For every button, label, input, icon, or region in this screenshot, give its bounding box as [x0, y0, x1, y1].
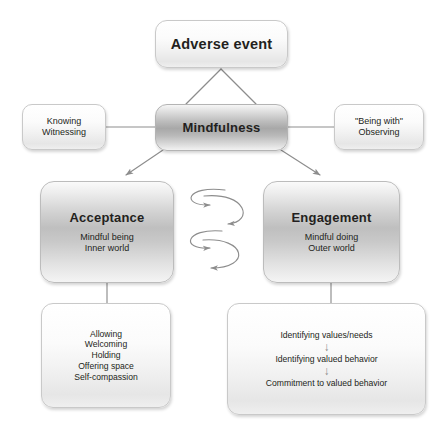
acceptance-practice-item: Welcoming [85, 339, 127, 350]
engagement-line-2: Outer world [308, 243, 355, 254]
edge-interplay-rightward-top [191, 189, 225, 205]
node-mindfulness[interactable]: Mindfulness [155, 104, 288, 151]
edge-adverse-to-mindfulness-right [221, 69, 256, 104]
node-knowing-witnessing[interactable]: Knowing Witnessing [22, 104, 106, 150]
knowing-line-2: Witnessing [42, 127, 86, 138]
knowing-line-1: Knowing [47, 116, 82, 127]
edge-mindfulness-to-engagement [281, 150, 320, 175]
diagram-canvas: Adverse event Knowing Witnessing Mindful… [0, 0, 448, 447]
node-engagement-practices[interactable]: Identifying values/needs ↓ Identifying v… [227, 303, 426, 415]
acceptance-title: Acceptance [70, 210, 145, 225]
node-adverse-event[interactable]: Adverse event [155, 20, 288, 68]
down-arrow-icon: ↓ [324, 341, 330, 353]
edge-mindfulness-to-acceptance [126, 150, 163, 175]
edge-interplay-rightward-mid [190, 231, 222, 248]
mindfulness-label: Mindfulness [182, 120, 260, 135]
node-being-with-observing[interactable]: "Being with" Observing [334, 104, 424, 150]
being-with-line-1: "Being with" [355, 116, 403, 127]
engagement-title: Engagement [291, 210, 371, 225]
adverse-event-label: Adverse event [171, 36, 273, 52]
engagement-line-1: Mindful doing [305, 232, 359, 243]
edge-interplay-leftward-bottom [203, 240, 239, 268]
being-with-line-2: Observing [358, 127, 399, 138]
node-engagement[interactable]: Engagement Mindful doing Outer world [263, 181, 400, 283]
edge-adverse-to-mindfulness-left [186, 69, 221, 104]
edge-interplay-leftward-upper [204, 196, 243, 224]
down-arrow-icon: ↓ [324, 365, 330, 377]
node-acceptance[interactable]: Acceptance Mindful being Inner world [40, 181, 174, 283]
engagement-step-2: Identifying valued behavior [275, 354, 377, 364]
acceptance-practice-item: Self-compassion [74, 372, 138, 383]
acceptance-line-1: Mindful being [80, 232, 134, 243]
acceptance-practice-item: Holding [91, 350, 120, 361]
node-acceptance-practices[interactable]: Allowing Welcoming Holding Offering spac… [41, 303, 171, 408]
engagement-step-1: Identifying values/needs [280, 330, 372, 340]
engagement-step-3: Commitment to valued behavior [266, 378, 387, 388]
acceptance-line-2: Inner world [85, 243, 130, 254]
acceptance-practice-item: Allowing [90, 329, 122, 340]
acceptance-practice-item: Offering space [78, 361, 134, 372]
